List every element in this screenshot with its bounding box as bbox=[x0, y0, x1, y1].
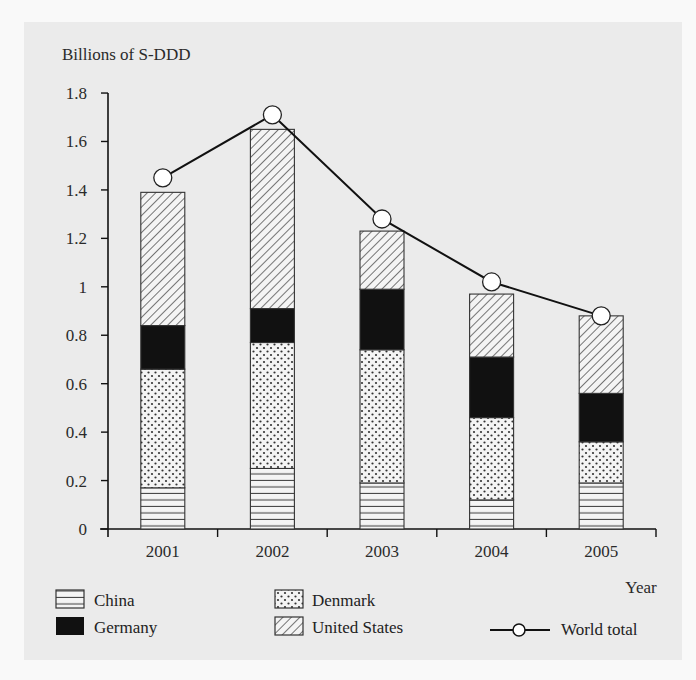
denmark-swatch-icon bbox=[275, 590, 303, 608]
y-tick-label: 1.8 bbox=[66, 84, 87, 103]
y-tick-label: 0.6 bbox=[66, 375, 87, 394]
x-tick-label: 2004 bbox=[475, 542, 510, 561]
world-total-marker bbox=[592, 307, 610, 325]
legend-label: United States bbox=[312, 618, 403, 637]
legend-label: Denmark bbox=[312, 591, 376, 610]
bar-segment-china bbox=[250, 468, 294, 529]
bar-segment-denmark bbox=[141, 369, 185, 488]
y-tick-label: 0.2 bbox=[66, 472, 87, 491]
bar-segment-united-states bbox=[250, 129, 294, 308]
world-total-marker bbox=[483, 273, 501, 291]
y-tick-label: 1.4 bbox=[66, 181, 88, 200]
y-tick-label: 0 bbox=[79, 520, 88, 539]
bar-segment-china bbox=[141, 488, 185, 529]
y-tick-label: 0.4 bbox=[66, 423, 88, 442]
bar-segment-denmark bbox=[470, 418, 514, 500]
bar-segment-germany bbox=[250, 309, 294, 343]
legend-item-denmark: Denmark bbox=[275, 590, 376, 610]
united-states-swatch-icon bbox=[275, 617, 303, 635]
legend-label: World total bbox=[561, 620, 638, 639]
bar-segment-china bbox=[360, 483, 404, 529]
germany-swatch-icon bbox=[56, 617, 84, 635]
bar-segment-united-states bbox=[470, 294, 514, 357]
y-axis-title: Billions of S-DDD bbox=[62, 45, 190, 64]
bar-segment-germany bbox=[141, 326, 185, 370]
bar-segment-germany bbox=[470, 357, 514, 418]
bar-2001 bbox=[141, 192, 185, 529]
bar-segment-china bbox=[579, 483, 623, 529]
bar-segment-germany bbox=[579, 393, 623, 441]
bar-2005 bbox=[579, 316, 623, 529]
bar-segment-china bbox=[470, 500, 514, 529]
y-tick-label: 0.8 bbox=[66, 326, 87, 345]
legend-item-china: China bbox=[56, 590, 135, 610]
x-tick-label: 2003 bbox=[365, 542, 399, 561]
world-total-marker bbox=[154, 169, 172, 187]
bar-segment-united-states bbox=[579, 316, 623, 394]
x-tick-label: 2001 bbox=[146, 542, 180, 561]
y-tick-label: 1.2 bbox=[66, 229, 87, 248]
x-tick-label: 2005 bbox=[584, 542, 618, 561]
bar-segment-united-states bbox=[141, 192, 185, 325]
bar-segment-denmark bbox=[250, 343, 294, 469]
legend-item-germany: Germany bbox=[56, 617, 158, 637]
bar-2002 bbox=[250, 129, 294, 529]
x-axis-title: Year bbox=[625, 578, 657, 597]
y-tick-label: 1.6 bbox=[66, 132, 87, 151]
y-tick-label: 1 bbox=[79, 278, 88, 297]
x-axis: 20012002200320042005 bbox=[100, 529, 656, 561]
world-total-marker-icon bbox=[513, 624, 525, 636]
legend-item-world-total: World total bbox=[490, 620, 638, 639]
y-axis: 00.20.40.60.811.21.41.61.8 bbox=[66, 84, 108, 539]
world-total-marker bbox=[373, 210, 391, 228]
bar-segment-denmark bbox=[579, 442, 623, 483]
china-swatch-icon bbox=[56, 590, 84, 608]
bar-2003 bbox=[360, 231, 404, 529]
legend-label: Germany bbox=[94, 618, 158, 637]
bar-segment-united-states bbox=[360, 231, 404, 289]
legend-item-united-states: United States bbox=[275, 617, 403, 637]
bars bbox=[141, 129, 623, 529]
stacked-bar-chart: Billions of S-DDD 00.20.40.60.811.21.41.… bbox=[0, 0, 696, 680]
x-tick-label: 2002 bbox=[255, 542, 289, 561]
world-total-marker bbox=[263, 106, 281, 124]
bar-2004 bbox=[470, 294, 514, 529]
legend-label: China bbox=[94, 591, 135, 610]
bar-segment-denmark bbox=[360, 350, 404, 483]
legend: China Germany Denmark United States Worl… bbox=[56, 590, 638, 639]
bar-segment-germany bbox=[360, 289, 404, 350]
